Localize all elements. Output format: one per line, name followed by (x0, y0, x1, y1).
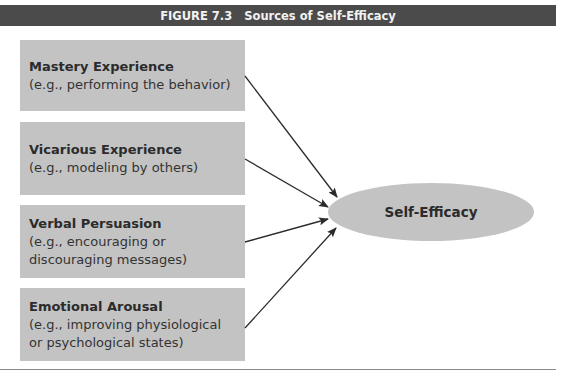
arrow-mastery-icon (245, 76, 337, 197)
arrow-verbal-icon (245, 219, 328, 242)
connector-arrows (0, 0, 566, 384)
bottom-divider (0, 369, 556, 370)
arrow-vicarious-icon (245, 159, 328, 207)
arrow-emotional-icon (245, 228, 336, 328)
